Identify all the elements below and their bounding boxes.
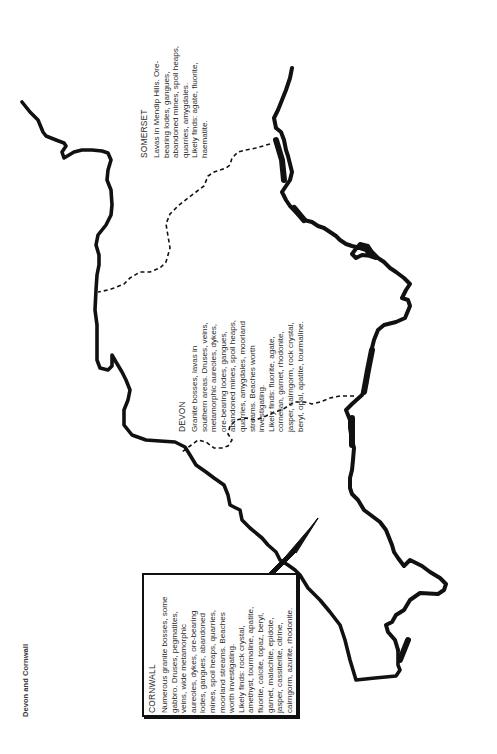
devon-line: cornelian, garnet, rhodonite, (276, 320, 286, 432)
coast-thick-5 (400, 640, 408, 660)
cornwall-label: CORNWALL Numerous granite bosses, some g… (147, 596, 294, 713)
devon-line: streams. Beaches worth (248, 320, 258, 432)
page-caption: Devon and Cornwall (14, 644, 32, 717)
devon-line: investigating. (257, 320, 267, 432)
callout-pointer-tip (296, 518, 318, 553)
devon-line: abandoned mines, spoil heaps, (228, 320, 238, 432)
devon-label: DEVON Granite bosses, lavas in southern … (177, 320, 305, 432)
cornwall-line: garnet, malachite, epidote, (266, 596, 276, 713)
devon-line: quarries, amygdales, moorland (238, 320, 248, 432)
cornwall-line: mines, spoil heaps, quarries, (208, 596, 218, 713)
cornwall-line: cairngorm, azurite, rhodonite. (285, 596, 295, 713)
cornwall-line: Likely finds: rock crystal, (237, 596, 247, 713)
somerset-line: quarries, amygdales. (181, 46, 191, 158)
cornwall-line: veins, wide metamorphic (179, 596, 189, 713)
cornwall-line: Numerous granite bosses, some (160, 596, 170, 713)
cornwall-line: worth investigating. (227, 596, 237, 713)
cornwall-line: amethyst, tourmaline, apatite, (246, 596, 256, 713)
devon-line: beryl, opal, apatite, tourmaline. (296, 320, 306, 432)
devon-line: metamorphic aureoles, dykes, (209, 320, 219, 432)
somerset-line: Likely finds: agate, fluorite, (190, 46, 200, 158)
cornwall-line: fluorite, calcite, topaz, beryl, (256, 596, 266, 713)
devon-line: Likely finds: fluorite, agate, (267, 320, 277, 432)
coast-thick-2 (294, 208, 304, 220)
cornwall-line: aureoles, dykes, ore-bearing (189, 596, 199, 713)
somerset-devon-border (98, 144, 270, 292)
devon-line: southern areas. Druses, veins, (200, 320, 210, 432)
somerset-line: haematite. (200, 46, 210, 158)
somerset-label: SOMERSET Lavas in Mendip Hills. Ore- bea… (139, 46, 210, 158)
cornwall-line: lodes, gangues, abandoned (198, 596, 208, 713)
cornwall-line: gabbro. Druses, pegmatites, (170, 596, 180, 713)
somerset-title: SOMERSET (139, 46, 149, 158)
devon-line: ore-bearing lodes, gangues, (219, 320, 229, 432)
coast-thick-3 (364, 350, 372, 392)
caption-text: Devon and Cornwall (21, 644, 30, 717)
devon-title: DEVON (177, 320, 187, 432)
somerset-line: abandoned mines, spoil heaps, (171, 46, 181, 158)
somerset-line: bearing lodes, gangues, (162, 46, 172, 158)
cornwall-title: CORNWALL (147, 596, 157, 713)
devon-line: Granite bosses, lavas in (190, 320, 200, 432)
coast-thick-1 (276, 140, 284, 180)
cornwall-line: moorland streams. Beaches (218, 596, 228, 713)
devon-line: jasper, cairngorm, rock crystal, (286, 320, 296, 432)
cornwall-line: jasper, cassiterite, citrine, (275, 596, 285, 713)
somerset-line: Lavas in Mendip Hills. Ore- (152, 46, 162, 158)
